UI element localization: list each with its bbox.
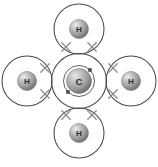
hydrogen-bottom-atom: H xyxy=(70,124,89,143)
hydrogen-left-atom: H xyxy=(18,72,37,91)
carbon-inner-electron-upper-right xyxy=(88,68,91,71)
hydrogen-right-atom: H xyxy=(122,72,141,91)
atom-spheres: H H H H C xyxy=(18,20,141,143)
hydrogen-right-sphere xyxy=(122,72,141,91)
hydrogen-top-sphere xyxy=(70,20,89,39)
methane-bonding-diagram: H H H H C xyxy=(0,0,158,167)
carbon-inner-electron-lower-left xyxy=(66,90,69,93)
molecule-canvas: H H H H C xyxy=(0,0,158,167)
carbon-sphere xyxy=(67,69,92,94)
hydrogen-bottom-sphere xyxy=(70,124,89,143)
hydrogen-left-sphere xyxy=(18,72,37,91)
hydrogen-top-atom: H xyxy=(70,20,89,39)
carbon-atom: C xyxy=(67,69,92,94)
